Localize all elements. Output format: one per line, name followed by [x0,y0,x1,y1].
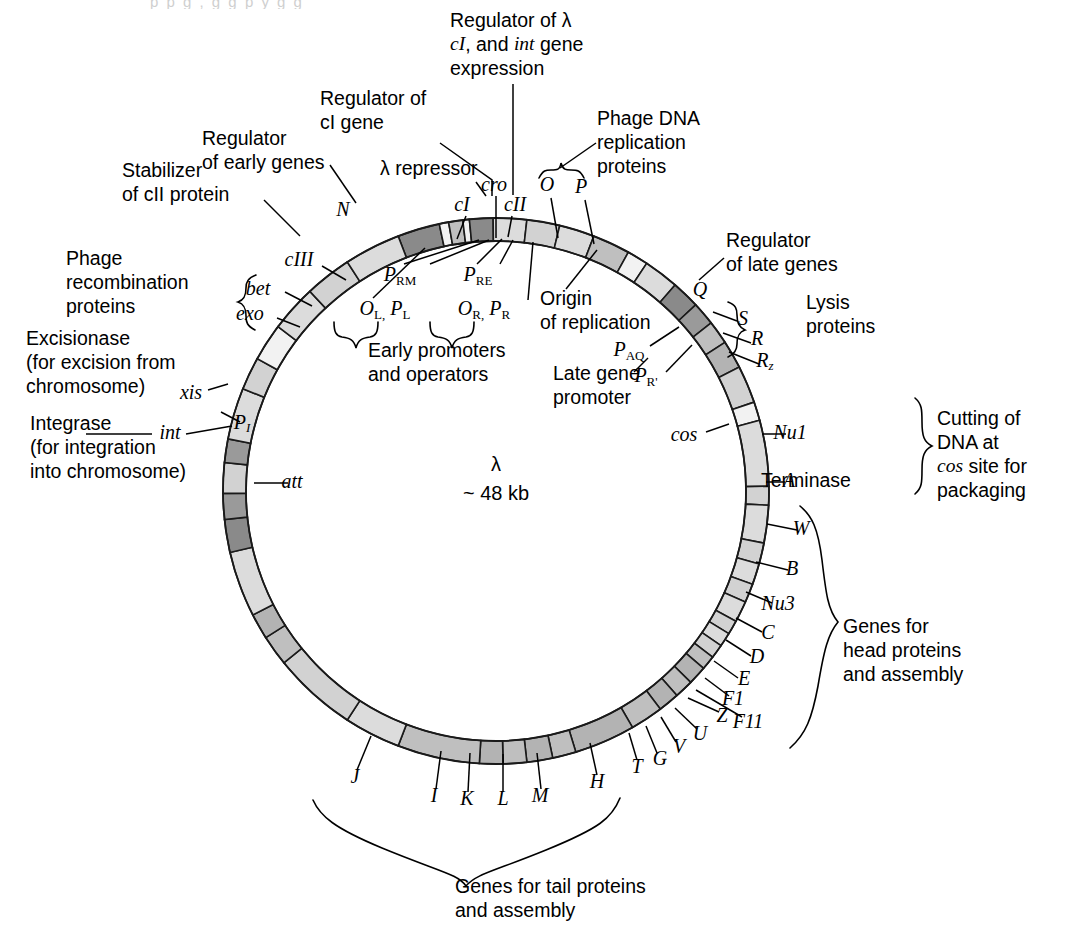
callout-lambda-repressor: λ repressor [380,157,478,179]
gene-label-J: J [351,765,361,787]
gene-label-cos: cos [671,423,698,445]
gene-label-C: C [761,621,775,643]
lead-cos [706,424,729,432]
gene-label-G: G [653,747,668,769]
callout-excisionase: Excisionase(for excision fromchromosome) [26,327,176,397]
callout-regulator-cI: Regulator ofcI gene [320,87,427,133]
promoter-label-PRM: PRM [383,263,417,288]
lead-PRE2 [500,240,513,264]
lead-PAQ [650,327,679,346]
lead-C [736,618,762,632]
gene-label-Nu3: Nu3 [760,592,794,614]
lead-int [186,426,232,434]
gene-label-R: R [750,327,763,349]
callout-phage-dna-replication: Phage DNAreplicationproteins [597,107,700,177]
ring-segment-att [284,648,360,720]
gene-label-O: O [540,173,554,195]
gene-label-T: T [631,755,644,777]
callout-regulator-late: Regulatorof late genes [726,229,838,275]
center-lambda: λ [491,453,501,475]
gene-label-S: S [738,307,748,329]
gene-label-U: U [693,722,709,744]
gene-label-H: H [589,770,606,792]
center-label: λ ~ 48 kb [463,453,529,504]
ring-segment-gam [223,462,247,493]
callout-origin-replication: Originof replication [540,287,651,333]
callout-cutting-dna: Cutting ofDNA atcos site forpackaging [937,407,1027,501]
gene-label-Nu1: Nu1 [772,421,806,443]
callout-late-gene-promoter: Late genepromoter [553,362,640,408]
ring-segment-bet [223,493,247,519]
gene-label-L: L [496,787,508,809]
callout-phage-recombination: Phagerecombinationproteins [66,247,188,317]
lambda-genome-figure: p p g , g g p y g g NcIcrocIIOPcIIIbetex… [0,0,1074,942]
ring-segment-K [503,739,527,764]
gene-label-cIII: cIII [285,248,315,270]
gene-label-K: K [459,787,475,809]
lead-PRp [666,345,692,372]
lead-D [726,640,751,656]
gene-label-cI: cI [454,193,471,215]
gene-label-I: I [430,784,439,806]
gene-label-W: W [793,517,812,539]
gene-label-V: V [673,735,688,757]
callout-regulator-lambda: Regulator of λcI, and int geneexpression [450,9,583,79]
gene-label-Q: Q [693,278,708,300]
gene-label-cII: cII [504,193,528,215]
promoter-label-OLPL: OL, PL [360,297,411,322]
gene-label-B: B [786,557,798,579]
callout-genes-tail: Genes for tail proteinsand assembly [455,875,646,921]
lead-stabilizer-cII [264,200,300,236]
promoter-label-PRE: PRE [463,263,493,288]
gene-label-E: E [737,667,750,689]
gene-label-M: M [531,784,550,806]
ring-segment-I [479,741,503,764]
lead-B [756,562,788,570]
ring-segment-xisr [230,547,273,615]
gene-label-P: P [574,175,587,197]
gene-label-D: D [749,645,765,667]
gene-label-xis: xis [179,381,202,403]
ring-segment-cII [469,218,493,242]
callout-lysis-proteins: Lysisproteins [806,291,876,337]
gene-label-cro: cro [481,173,507,195]
lead-phage-dna-rep [560,143,596,168]
callout-early-promoters: Early promotersand operators [368,339,506,385]
gene-label-Rz: Rz [755,349,773,373]
lead-ORPR [528,242,533,300]
callout-genes-head: Genes forhead proteinsand assembly [843,615,964,685]
brace-tail [313,798,620,886]
center-size: ~ 48 kb [463,482,529,504]
brace-cutting [915,398,932,494]
gene-label-bet: bet [246,277,271,299]
gene-label-Z: Z [716,704,728,726]
lead-xis [208,384,228,390]
callout-regulator-early: Regulatorof early genes [202,127,325,173]
gene-label-int: int [159,421,181,443]
callout-labels: Regulator of λcI, and int geneexpression… [26,9,1027,921]
promoter-label-PAQ: PAQ [613,338,646,363]
gene-label-N: N [335,198,351,220]
diagram-canvas: NcIcrocIIOPcIIIbetexoxisintPIattQSRRzcos… [0,0,1074,942]
gene-label-exo: exo [236,302,264,324]
ring-segment-H [569,708,632,753]
gene-label-F11: F11 [732,710,764,732]
gene-label-att: att [281,470,303,492]
brace-head [790,506,838,748]
gene-label-Aterm: Terminase [761,469,851,491]
lead-E [714,661,738,678]
promoter-label-ORPR: OR, PR [458,297,511,322]
lead-S [713,312,737,321]
